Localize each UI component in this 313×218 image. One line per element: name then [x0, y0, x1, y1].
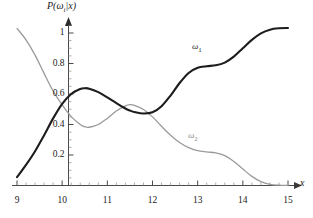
- y-tick-label: 0.6: [31, 89, 65, 99]
- x-tick-label: 14: [229, 196, 257, 206]
- data-curves: [17, 28, 288, 186]
- y-axis: [65, 17, 74, 186]
- omega1-subscript: 1: [198, 46, 202, 54]
- y-tick-label: 0.8: [31, 59, 65, 69]
- y-tick-label: 0.2: [31, 150, 65, 160]
- x-axis-title: x: [300, 178, 304, 188]
- x-tick-label: 13: [184, 196, 212, 206]
- x-tick-label: 9: [3, 196, 31, 206]
- y-axis-title: P(ωi|x): [47, 1, 76, 14]
- x-tick-label: 15: [274, 196, 302, 206]
- omega2-subscript: 2: [194, 135, 198, 143]
- curve-omega2: [17, 28, 288, 185]
- curve-label-omega2: ω2: [188, 131, 198, 143]
- x-axis: [12, 181, 302, 190]
- y-axis-arrow-icon: [65, 17, 72, 26]
- curve-label-omega1: ω1: [192, 42, 202, 54]
- x-tick-label: 11: [93, 196, 121, 206]
- x-tick-label: 10: [48, 196, 76, 206]
- x-tick-label: 12: [139, 196, 167, 206]
- y-tick-label: 1: [31, 28, 65, 38]
- probability-curve-figure: P(ωi|x) x ω1 ω2 91011121314150.20.40.60.…: [0, 0, 313, 218]
- y-tick-label: 0.4: [31, 120, 65, 130]
